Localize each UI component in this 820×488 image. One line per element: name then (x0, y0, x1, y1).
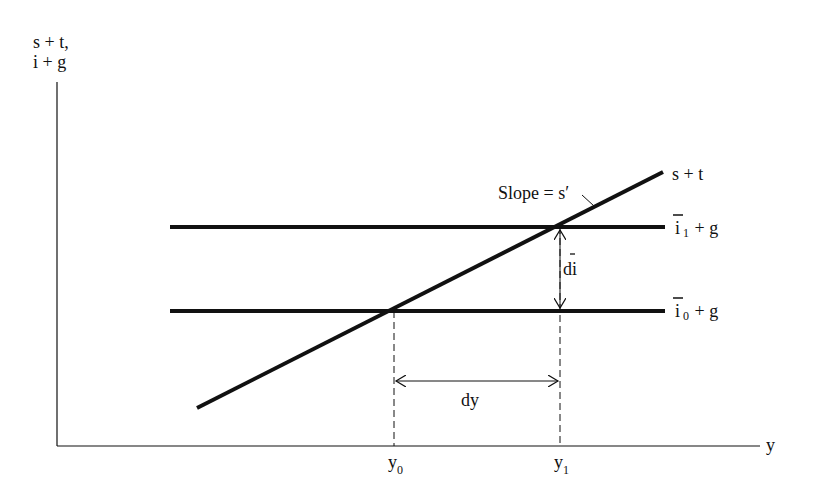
x-tick-0-sub: 0 (397, 463, 403, 477)
y-axis-label-line2: i + g (33, 52, 66, 72)
vertical-gap-label: di (563, 259, 577, 279)
upper-line-label-base: i (675, 218, 680, 238)
horizontal-gap-label: dy (461, 390, 479, 410)
lower-line-label-rest: + g (690, 301, 718, 321)
x-tick-1-sub: 1 (563, 463, 569, 477)
x-tick-1-base: y (554, 452, 563, 472)
slope-pointer (582, 195, 594, 206)
slope-label: Slope = s′ (498, 183, 569, 203)
x-tick-0-base: y (388, 452, 397, 472)
y-axis-label-line1: s + t, (33, 32, 69, 52)
upper-line-label-rest: + g (690, 218, 718, 238)
s-plus-t-line (197, 172, 663, 408)
curve-label: s + t (672, 164, 703, 184)
lower-line-label-base: i (675, 301, 680, 321)
upper-line-label-sub: 1 (683, 226, 689, 240)
lower-line-label-sub: 0 (683, 309, 689, 323)
x-axis-label: y (766, 435, 775, 455)
macro-diagram: s + t, i + g y s + t Slope = s′ i 1 + g … (0, 0, 820, 488)
